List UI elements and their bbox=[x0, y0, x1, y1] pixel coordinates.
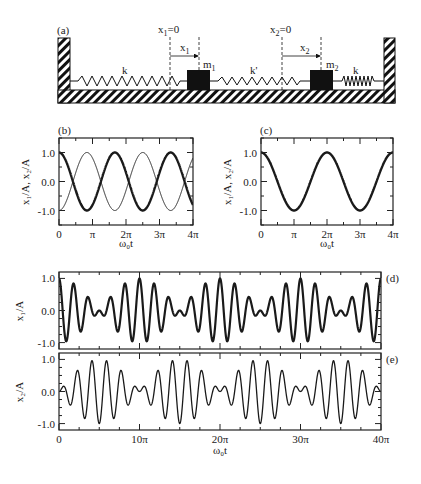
xlabel-b: ω₀t bbox=[119, 237, 133, 249]
ytick-label: 1.0 bbox=[243, 147, 257, 159]
xtick-label: 4π bbox=[387, 228, 399, 240]
panel-label-d: (d) bbox=[386, 272, 399, 285]
spring-left-label: k bbox=[122, 64, 128, 76]
frame-c bbox=[261, 138, 393, 225]
panel-label-c: (c) bbox=[260, 124, 273, 137]
frame-b bbox=[59, 138, 193, 225]
spring-right-label: k bbox=[353, 64, 359, 76]
xtick-label: 3π bbox=[354, 228, 366, 240]
xtick-label: 3π bbox=[154, 228, 166, 240]
plot-c: 0π2π3π4π1.00.0-1.0 bbox=[240, 138, 399, 240]
plot-d: 1.00.0-1.0 bbox=[38, 272, 381, 349]
ylabel-b: x₁/A, x₂/A bbox=[19, 159, 31, 205]
x1-zero-label: x1=0 bbox=[158, 23, 180, 38]
ylabel-d: x₁/A bbox=[13, 301, 25, 321]
panel-label-a: (a) bbox=[57, 24, 70, 37]
x1-label: x1 bbox=[180, 41, 190, 56]
ylabel-e: x₂/A bbox=[13, 382, 25, 402]
spring-left bbox=[70, 76, 187, 86]
xlabel-e: ω₀t bbox=[213, 444, 227, 456]
xtick-label: 30π bbox=[292, 433, 309, 445]
ytick-label: 1.0 bbox=[41, 147, 55, 159]
mass-m2 bbox=[310, 70, 333, 90]
ytick-label: 1.0 bbox=[41, 272, 55, 284]
panel-a-diagram: (a) x1=0 x1 x2=0 x2 k k' k m1 m2 bbox=[57, 23, 395, 103]
spring-middle bbox=[210, 77, 310, 85]
ytick-label: 1.0 bbox=[41, 353, 55, 365]
ytick-label: -1.0 bbox=[240, 205, 258, 217]
ytick-label: -1.0 bbox=[38, 205, 56, 217]
xtick-label: 0 bbox=[56, 433, 62, 445]
curve-b-0 bbox=[59, 153, 193, 211]
ytick-label: -1.0 bbox=[38, 337, 56, 349]
xtick-label: π bbox=[291, 228, 297, 240]
ytick-label: -1.0 bbox=[38, 418, 56, 430]
panel-label-b: (b) bbox=[58, 124, 71, 137]
ytick-label: 0.0 bbox=[41, 305, 55, 317]
xtick-label: π bbox=[90, 228, 96, 240]
x2-label: x2 bbox=[300, 41, 310, 56]
plot-panels: 0π2π3π4π1.00.0-1.00π2π3π4π1.00.0-1.01.00… bbox=[38, 138, 399, 445]
figure: (a) x1=0 x1 x2=0 x2 k k' k m1 m2 0π2π3π4… bbox=[0, 0, 421, 484]
ytick-label: 0.0 bbox=[41, 386, 55, 398]
spring-right bbox=[333, 76, 384, 86]
plot-e: 010π20π30π40π1.00.0-1.0 bbox=[38, 353, 390, 445]
spring-middle-label: k' bbox=[250, 64, 258, 76]
xtick-label: 10π bbox=[131, 433, 148, 445]
right-wall bbox=[384, 38, 395, 103]
xtick-label: 40π bbox=[373, 433, 390, 445]
curve-d-0 bbox=[59, 278, 381, 341]
ylabel-c: x₁/A, x₂/A bbox=[221, 159, 233, 205]
plot-b: 0π2π3π4π1.00.0-1.0 bbox=[38, 138, 199, 240]
ytick-label: 0.0 bbox=[41, 176, 55, 188]
floor bbox=[58, 90, 395, 103]
curve-c-0 bbox=[261, 153, 393, 211]
x2-zero-label: x2=0 bbox=[270, 23, 292, 38]
curve-e-0 bbox=[59, 361, 381, 424]
ytick-label: 0.0 bbox=[243, 176, 257, 188]
xlabel-c: ω₀t bbox=[320, 237, 334, 249]
panel-label-e: (e) bbox=[386, 353, 399, 366]
xtick-label: 0 bbox=[258, 228, 264, 240]
xtick-label: 4π bbox=[187, 228, 199, 240]
mass-m1 bbox=[187, 70, 210, 90]
xtick-label: 0 bbox=[56, 228, 62, 240]
